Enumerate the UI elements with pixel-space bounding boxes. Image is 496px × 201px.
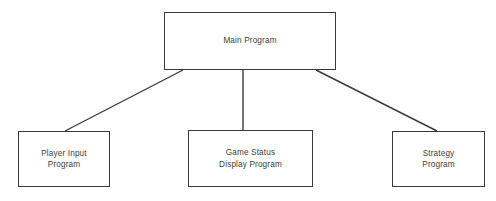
diagram-canvas: Main Program Player Input Program Game S… [0,0,496,201]
node-strategy-program-label: Strategy Program [422,148,454,171]
connector-main-to-strategy [316,70,437,131]
node-main-program-label: Main Program [223,35,276,47]
node-game-status-display-program[interactable]: Game Status Display Program [188,130,313,187]
node-game-status-display-program-label: Game Status Display Program [219,147,282,170]
node-main-program[interactable]: Main Program [164,12,336,70]
node-strategy-program[interactable]: Strategy Program [392,131,485,187]
node-player-input-program-label: Player Input Program [41,148,87,171]
node-player-input-program[interactable]: Player Input Program [18,131,110,187]
connector-main-to-player-input [65,70,183,131]
